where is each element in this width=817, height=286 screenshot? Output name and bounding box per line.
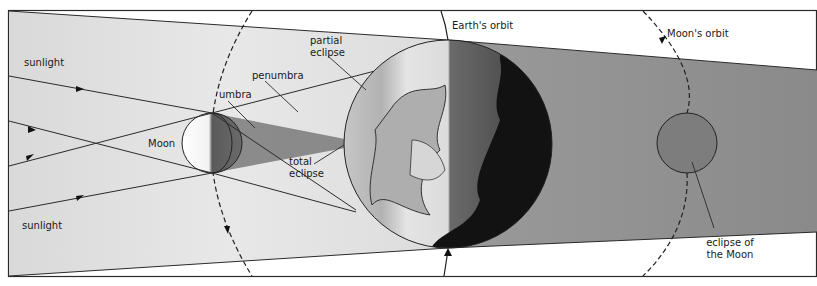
moon (182, 113, 242, 173)
label-umbra: umbra (219, 88, 252, 101)
label-earths-orbit: Earth's orbit (452, 19, 513, 32)
label-moons-orbit: Moon's orbit (667, 27, 729, 40)
lunar-eclipse-diagram (0, 0, 817, 286)
eclipsed-moon (657, 113, 717, 173)
label-sunlight-top: sunlight (24, 56, 64, 69)
label-sunlight-bottom: sunlight (22, 219, 62, 232)
label-total-eclipse-2: eclipse (289, 167, 324, 180)
label-moon: Moon (148, 137, 175, 150)
label-partial-eclipse-2: eclipse (310, 46, 345, 59)
label-eclipse-of-moon-2: the Moon (700, 248, 760, 261)
label-penumbra: penumbra (252, 69, 304, 82)
